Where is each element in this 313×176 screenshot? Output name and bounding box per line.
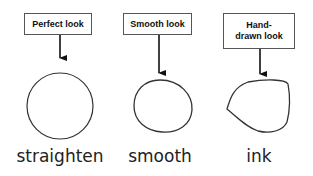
- smooth-label: smooth: [110, 146, 210, 166]
- ink-label: ink: [209, 146, 309, 166]
- straighten-label: straighten: [10, 146, 110, 166]
- hand-drawn-look-box: Hand-drawn look: [223, 13, 295, 49]
- smooth-circle-shape: [134, 80, 192, 132]
- perfect-look-box: Perfect look: [24, 13, 92, 35]
- smooth-look-box: Smooth look: [123, 13, 192, 35]
- perfect-circle-shape: [27, 73, 93, 139]
- ink-circle-shape: [227, 80, 289, 132]
